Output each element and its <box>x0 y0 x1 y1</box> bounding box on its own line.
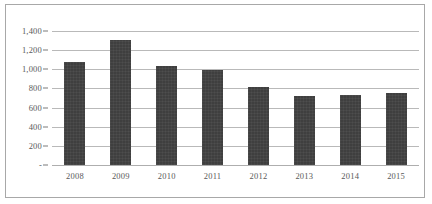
x-axis: 20082009201020112012201320142015 <box>52 171 419 189</box>
x-axis-tick-label: 2011 <box>190 171 236 181</box>
bar <box>156 66 177 165</box>
bar <box>64 62 85 165</box>
chart-frame: 1,400 1,200 1,000 800 600 400 200 - 2008… <box>5 4 425 198</box>
bar <box>110 40 131 165</box>
y-axis-tick-label: 600 <box>29 103 42 113</box>
bar <box>248 87 269 165</box>
bar <box>294 96 315 165</box>
bar <box>340 95 361 165</box>
y-axis-tick-label: 400 <box>29 122 42 132</box>
y-axis: 1,400 1,200 1,000 800 600 400 200 - <box>6 29 50 169</box>
x-axis-tick-label: 2008 <box>52 171 98 181</box>
x-axis-tick-label: 2014 <box>327 171 373 181</box>
x-axis-tick-label: 2012 <box>235 171 281 181</box>
y-axis-tick-label: 800 <box>29 83 42 93</box>
y-axis-tick-mark <box>43 126 48 127</box>
y-axis-tick-mark <box>43 145 48 146</box>
y-axis-tick-mark <box>43 31 48 32</box>
x-axis-tick-label: 2013 <box>281 171 327 181</box>
y-axis-tick-mark <box>43 50 48 51</box>
y-axis-tick-label: 1,400 <box>22 26 42 36</box>
y-axis-tick-mark <box>43 69 48 70</box>
y-axis-tick-label: 1,000 <box>22 64 42 74</box>
bar-series <box>52 31 419 165</box>
bar <box>386 93 407 165</box>
y-axis-tick-label: 200 <box>29 141 42 151</box>
y-axis-tick-mark <box>43 165 48 166</box>
y-axis-tick-label: - <box>39 160 42 170</box>
y-axis-tick-label: 1,200 <box>22 45 42 55</box>
y-axis-tick-mark <box>43 107 48 108</box>
bar <box>202 70 223 165</box>
y-axis-tick-mark <box>43 88 48 89</box>
x-axis-tick-label: 2009 <box>98 171 144 181</box>
axis-baseline <box>52 165 419 166</box>
x-axis-tick-label: 2015 <box>373 171 419 181</box>
x-axis-tick-label: 2010 <box>144 171 190 181</box>
